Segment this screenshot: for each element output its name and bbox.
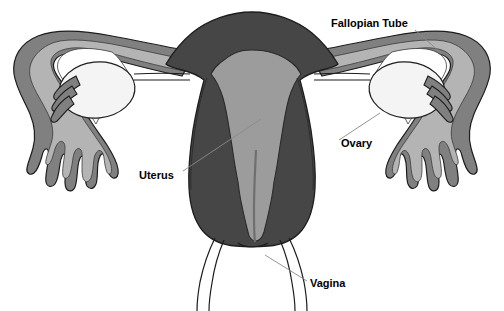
- label-fallopian-tube: Fallopian Tube: [331, 17, 408, 29]
- anatomy-diagram-canvas: Fallopian Tube Ovary Uterus Vagina: [0, 0, 504, 311]
- label-vagina: Vagina: [310, 277, 346, 289]
- label-uterus: Uterus: [139, 169, 174, 181]
- female-reproductive-system-illustration: Fallopian Tube Ovary Uterus Vagina: [0, 0, 504, 311]
- label-ovary: Ovary: [341, 137, 373, 149]
